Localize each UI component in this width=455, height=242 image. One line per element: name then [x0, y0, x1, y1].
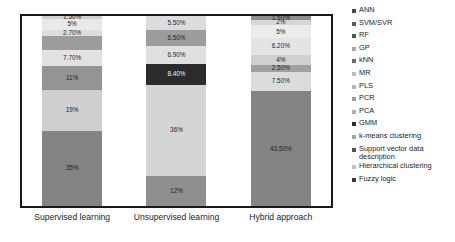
legend-label: GMM	[359, 119, 377, 127]
legend-swatch-icon	[352, 22, 356, 26]
legend-item-9[interactable]: PCA	[352, 107, 454, 119]
legend-label: k-means clustering	[359, 132, 421, 140]
stacked-bar[interactable]: 5.50%6.50%6.90%8.40%36%12%	[146, 16, 206, 206]
legend-item-13[interactable]: Hierarchical clustering	[352, 162, 454, 174]
legend-item-10[interactable]: GMM	[352, 119, 454, 131]
chart-legend: ANNSVM/SVRRFGPkNNMRPLSPCRPCAGMMk-means c…	[352, 6, 454, 188]
legend-label: ANN	[359, 6, 375, 14]
bar-segment[interactable]: 5.50%	[146, 16, 206, 30]
legend-swatch-icon	[352, 47, 356, 51]
bar-segment[interactable]: 6.50%	[146, 30, 206, 46]
chart-root: 1.50%5%2.70%7.70%11%19%35%5.50%6.50%6.90…	[0, 0, 455, 242]
bar-group-1: 1.50%5%2.70%7.70%11%19%35%	[20, 16, 124, 206]
legend-swatch-icon	[352, 148, 356, 152]
bar-segment[interactable]: 5%	[251, 25, 311, 38]
legend-label: SVM/SVR	[359, 19, 392, 27]
category-axis-labels: Supervised learningUnsupervised learning…	[20, 212, 333, 222]
legend-label: PCR	[359, 94, 375, 102]
category-label-3: Hybrid approach	[229, 212, 333, 222]
legend-swatch-icon	[352, 34, 356, 38]
legend-label: Support vector data description	[359, 145, 454, 162]
bar-segment[interactable]: 7.50%	[251, 72, 311, 92]
legend-item-1[interactable]: ANN	[352, 6, 454, 18]
category-label-1: Supervised learning	[20, 212, 124, 222]
legend-swatch-icon	[352, 85, 356, 89]
legend-label: kNN	[359, 56, 373, 64]
legend-swatch-icon	[352, 97, 356, 101]
stacked-bars-area: 1.50%5%2.70%7.70%11%19%35%5.50%6.50%6.90…	[20, 16, 333, 206]
legend-label: Hierarchical clustering	[359, 162, 432, 170]
legend-swatch-icon	[352, 178, 356, 182]
legend-swatch-icon	[352, 135, 356, 139]
bar-segment[interactable]: 11%	[42, 66, 102, 90]
bar-group-2: 5.50%6.50%6.90%8.40%36%12%	[124, 16, 228, 206]
stacked-bar[interactable]: 1.50%2%5%6.20%4%2.50%7.50%43.50%	[251, 16, 311, 206]
legend-swatch-icon	[352, 59, 356, 63]
bar-segment[interactable]: 43.50%	[251, 91, 311, 205]
legend-swatch-icon	[352, 9, 356, 13]
bar-segment[interactable]: 2.50%	[251, 65, 311, 72]
legend-swatch-icon	[352, 122, 356, 126]
bar-segment[interactable]: 6.20%	[251, 38, 311, 54]
bar-segment[interactable]: 4%	[251, 55, 311, 66]
legend-label: PLS	[359, 82, 373, 90]
legend-item-4[interactable]: GP	[352, 44, 454, 56]
bar-segment[interactable]: 35%	[42, 131, 102, 206]
legend-item-3[interactable]: RF	[352, 31, 454, 43]
legend-item-11[interactable]: k-means clustering	[352, 132, 454, 144]
legend-label: MR	[359, 69, 371, 77]
legend-label: RF	[359, 31, 369, 39]
category-label-2: Unsupervised learning	[124, 212, 228, 222]
legend-item-7[interactable]: PLS	[352, 82, 454, 94]
legend-swatch-icon	[352, 72, 356, 76]
legend-item-12[interactable]: Support vector data description	[352, 145, 454, 162]
legend-label: Fuzzy logic	[359, 175, 396, 183]
legend-label: GP	[359, 44, 370, 52]
bar-segment[interactable]: 36%	[146, 85, 206, 176]
stacked-bar[interactable]: 1.50%5%2.70%7.70%11%19%35%	[42, 16, 102, 206]
bar-segment[interactable]	[42, 36, 102, 50]
legend-item-8[interactable]: PCR	[352, 94, 454, 106]
bar-group-3: 1.50%2%5%6.20%4%2.50%7.50%43.50%	[229, 16, 333, 206]
legend-swatch-icon	[352, 165, 356, 169]
bar-segment[interactable]: 19%	[42, 90, 102, 131]
bar-segment[interactable]: 7.70%	[42, 50, 102, 67]
legend-item-2[interactable]: SVM/SVR	[352, 19, 454, 31]
bar-segment[interactable]: 8.40%	[146, 64, 206, 85]
bar-segment[interactable]: 12%	[146, 176, 206, 206]
legend-item-6[interactable]: MR	[352, 69, 454, 81]
bar-segment[interactable]: 5%	[42, 19, 102, 30]
legend-item-5[interactable]: kNN	[352, 56, 454, 68]
legend-swatch-icon	[352, 110, 356, 114]
legend-label: PCA	[359, 107, 374, 115]
legend-item-14[interactable]: Fuzzy logic	[352, 175, 454, 187]
bar-segment[interactable]: 6.90%	[146, 46, 206, 63]
